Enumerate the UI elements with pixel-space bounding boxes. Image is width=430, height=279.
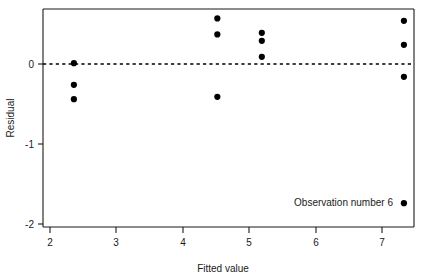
y-axis-title: Residual — [5, 99, 16, 138]
y-tick-label-neg1: -1 — [25, 139, 34, 150]
x-axis-title: Fitted value — [197, 263, 249, 274]
x-tick-label-2: 2 — [47, 237, 53, 248]
chart-background — [0, 0, 430, 279]
residual-vs-fitted-scatter-chart: 0 -1 -2 2 3 4 5 6 7 Observation number 6 — [0, 0, 430, 279]
scatter-point — [71, 82, 77, 88]
scatter-point — [401, 200, 407, 206]
scatter-point — [401, 18, 407, 24]
scatter-point — [259, 30, 265, 36]
scatter-point — [214, 15, 220, 21]
outlier-annotation-label: Observation number 6 — [294, 197, 393, 208]
x-tick-label-3: 3 — [113, 237, 119, 248]
scatter-point — [259, 54, 265, 60]
scatter-point — [401, 74, 407, 80]
scatter-point — [259, 38, 265, 44]
y-tick-label-neg2: -2 — [25, 219, 34, 230]
scatter-point — [71, 96, 77, 102]
x-tick-label-6: 6 — [313, 237, 319, 248]
x-tick-label-4: 4 — [180, 237, 186, 248]
x-tick-label-7: 7 — [379, 237, 385, 248]
residual-plot-figure: 0 -1 -2 2 3 4 5 6 7 Observation number 6 — [0, 0, 430, 279]
scatter-point — [214, 31, 220, 37]
scatter-point — [401, 42, 407, 48]
scatter-point — [214, 94, 220, 100]
x-tick-label-5: 5 — [246, 237, 252, 248]
y-tick-label-0: 0 — [28, 59, 34, 70]
scatter-point — [71, 60, 77, 66]
